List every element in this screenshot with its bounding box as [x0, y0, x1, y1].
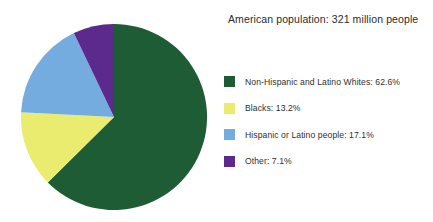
- legend-item-hispanic-or-latino-people: Hispanic or Latino people: 17.1%: [224, 129, 433, 140]
- legend-swatch-icon: [224, 156, 235, 167]
- legend-item-other: Other: 7.1%: [224, 156, 433, 167]
- legend-panel: American population: 321 million people …: [224, 10, 433, 190]
- pie-slices: [21, 24, 207, 210]
- legend-item-blacks: Blacks: 13.2%: [224, 103, 433, 114]
- legend-item-label: Blacks: 13.2%: [245, 103, 301, 113]
- pie-chart-graphic: [20, 23, 208, 211]
- legend-swatch-icon: [224, 76, 235, 87]
- chart-title: American population: 321 million people: [228, 13, 418, 25]
- legend-swatch-icon: [224, 103, 235, 114]
- legend-item-label: Other: 7.1%: [245, 156, 292, 166]
- pie-svg: [20, 23, 208, 211]
- legend-swatch-icon: [224, 129, 235, 140]
- legend-list: Non-Hispanic and Latino Whites: 62.6% Bl…: [224, 76, 433, 182]
- pie-chart-figure: American population: 321 million people …: [0, 0, 433, 222]
- legend-item-label: Hispanic or Latino people: 17.1%: [245, 130, 374, 140]
- legend-item-non-hispanic-and-latino-whites: Non-Hispanic and Latino Whites: 62.6%: [224, 76, 433, 87]
- legend-item-label: Non-Hispanic and Latino Whites: 62.6%: [245, 77, 400, 87]
